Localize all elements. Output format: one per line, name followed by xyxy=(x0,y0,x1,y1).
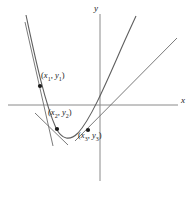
point-3-x-sub: 3 xyxy=(85,136,88,142)
data-point-marker-1 xyxy=(38,84,42,88)
point-1-x-sub: 1 xyxy=(48,76,51,82)
point-label-2: (x2, y2) xyxy=(48,108,72,121)
x-axis-label: x xyxy=(181,96,185,105)
point-3-y-sub: 3 xyxy=(96,136,99,142)
data-point-marker-2 xyxy=(55,127,59,131)
tangent-line-at-point-3 xyxy=(75,38,177,141)
point-2-y-sub: 2 xyxy=(66,113,69,119)
parabola-diagram xyxy=(0,0,195,203)
tangent-line-at-point-1 xyxy=(25,22,53,146)
point-1-y-sub: 1 xyxy=(59,76,62,82)
point-2-x-sub: 2 xyxy=(55,113,58,119)
y-axis-label: y xyxy=(94,4,98,13)
point-label-1: (x1, y1) xyxy=(41,71,65,84)
point-label-3: (x3, y3) xyxy=(78,131,102,144)
figure-canvas: y x (x1, y1) (x2, y2) (x3, y3) xyxy=(0,0,195,203)
